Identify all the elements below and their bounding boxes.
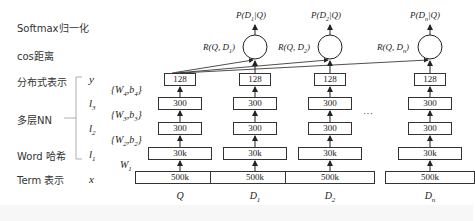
var-l3: l3 [89, 97, 96, 112]
d1-layer-300-b: 300 [233, 122, 277, 135]
weight-w1: W1 [120, 159, 132, 173]
dn-layer-300-b: 300 [408, 122, 452, 135]
dn-layer-30k: 30k [398, 147, 462, 160]
dn-layer-500k: 500k [385, 171, 475, 184]
weight-w3-b3: {W3,b3} [111, 109, 142, 123]
relevance-d1: R(Q, D1) [203, 42, 235, 54]
ellipsis: ··· [363, 108, 373, 119]
d2-layer-500k: 500k [285, 171, 375, 184]
q-layer-300-b: 300 [158, 122, 202, 135]
column-name-d2: D2 [315, 190, 345, 204]
dn-layer-128: 128 [414, 73, 446, 86]
label-word-hashing: Word 哈希 [17, 148, 66, 163]
weight-w4-b4: {W4,b4} [111, 84, 142, 98]
var-l1: l1 [89, 148, 96, 163]
label-softmax: Softmax归一化 [17, 20, 89, 35]
dn-layer-300-a: 300 [408, 97, 452, 110]
probability-d2: P(D2|Q) [311, 10, 341, 22]
d2-layer-300-b: 300 [308, 122, 352, 135]
column-name-d1: D1 [240, 190, 270, 204]
d1-layer-128: 128 [239, 73, 271, 86]
probability-dn: P(Dn|Q) [410, 10, 440, 22]
label-cos-distance: cos距离 [17, 48, 54, 63]
var-y: y [89, 73, 94, 85]
label-term-representation: Term 表示 [17, 172, 64, 187]
probability-d1: P(D1|Q) [236, 10, 266, 22]
d2-layer-30k: 30k [298, 147, 362, 160]
relevance-d2: R(Q, D2) [278, 42, 310, 54]
var-x: x [89, 173, 94, 185]
label-multilayer-nn: 多层NN [17, 112, 52, 127]
q-layer-30k: 30k [148, 147, 212, 160]
column-name-dn: Dn [415, 190, 445, 204]
d1-layer-30k: 30k [223, 147, 287, 160]
label-distributed-representation: 分布式表示 [17, 74, 67, 89]
weight-w2-b2: {W2,b2} [111, 134, 142, 148]
q-layer-300-a: 300 [158, 97, 202, 110]
d2-layer-300-a: 300 [308, 97, 352, 110]
bottom-margin [0, 205, 473, 221]
q-layer-128: 128 [164, 73, 196, 86]
var-l2: l2 [89, 122, 96, 137]
d2-layer-128: 128 [314, 73, 346, 86]
column-name-q: Q [165, 190, 195, 201]
relevance-dn: R(Q, Dn) [377, 42, 409, 54]
d1-layer-300-a: 300 [233, 97, 277, 110]
